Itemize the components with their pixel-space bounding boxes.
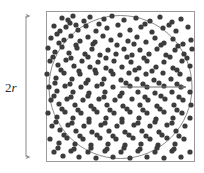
scatter-dot bbox=[52, 49, 57, 54]
scatter-dot bbox=[71, 146, 76, 151]
scatter-dot bbox=[134, 34, 139, 39]
scatter-dot bbox=[73, 128, 78, 133]
scatter-dot bbox=[149, 68, 154, 73]
scatter-dot bbox=[178, 154, 183, 159]
scatter-dot bbox=[152, 35, 157, 40]
scatter-dot bbox=[51, 23, 56, 28]
scatter-dot bbox=[169, 120, 174, 125]
scatter-dot bbox=[67, 20, 72, 25]
scatter-dot bbox=[173, 128, 178, 133]
scatter-dot bbox=[45, 110, 50, 115]
scatter-dot bbox=[112, 97, 117, 102]
scatter-dot bbox=[154, 145, 159, 150]
scatter-dot bbox=[51, 149, 56, 154]
scatter-dot bbox=[70, 89, 75, 94]
scatter-dot bbox=[60, 153, 65, 158]
scatter-dot bbox=[90, 41, 95, 46]
scatter-dot bbox=[173, 28, 178, 33]
scatter-dot bbox=[186, 76, 191, 81]
scatter-dot bbox=[75, 27, 80, 32]
scatter-dot bbox=[54, 114, 59, 119]
scatter-dot bbox=[71, 63, 76, 68]
scatter-dot bbox=[102, 120, 107, 125]
scatter-dot bbox=[104, 102, 109, 107]
scatter-dot bbox=[108, 37, 113, 42]
scatter-dot bbox=[135, 89, 140, 94]
scatter-dot bbox=[54, 31, 59, 36]
scatter-dot bbox=[134, 76, 139, 81]
scatter-dot bbox=[93, 28, 98, 33]
scatter-dot bbox=[46, 84, 51, 89]
scatter-dot bbox=[124, 106, 129, 111]
scatter-dot bbox=[68, 33, 73, 38]
scatter-dot bbox=[77, 38, 82, 43]
scatter-dot bbox=[121, 17, 126, 22]
scatter-dot bbox=[56, 140, 61, 145]
scatter-dot bbox=[119, 119, 124, 124]
scatter-dot bbox=[110, 133, 115, 138]
scatter-dot bbox=[174, 81, 179, 86]
scatter-dot bbox=[167, 54, 172, 59]
scatter-dot bbox=[117, 93, 122, 98]
scatter-dot bbox=[67, 81, 72, 86]
scatter-dot bbox=[88, 145, 93, 150]
scatter-dot bbox=[136, 115, 141, 120]
scatter-dot bbox=[140, 81, 145, 86]
scatter-dot bbox=[68, 94, 73, 99]
scatter-dot bbox=[152, 119, 157, 124]
scatter-dot bbox=[149, 29, 154, 34]
scatter-dot bbox=[147, 123, 152, 128]
scatter-dot bbox=[105, 47, 110, 52]
scatter-dot bbox=[123, 80, 128, 85]
scatter-dot bbox=[87, 14, 92, 19]
scatter-dot bbox=[164, 122, 169, 127]
scatter-dot bbox=[178, 16, 183, 21]
scatter-dot bbox=[101, 16, 106, 21]
scatter-dot bbox=[111, 58, 116, 63]
scatter-dot bbox=[176, 94, 181, 99]
scatter-dot bbox=[146, 51, 151, 56]
scatter-dot bbox=[175, 43, 180, 48]
scatter-dot bbox=[110, 154, 115, 159]
scatter-dot bbox=[169, 89, 174, 94]
scatter-dot bbox=[79, 58, 84, 63]
scatter-dot bbox=[184, 55, 189, 60]
scatter-dot bbox=[45, 45, 50, 50]
scatter-dot bbox=[85, 54, 90, 59]
scatter-dot bbox=[49, 123, 54, 128]
scatter-dot bbox=[118, 77, 123, 82]
scatter-dot bbox=[70, 13, 75, 18]
scatter-dot bbox=[81, 18, 86, 23]
scatter-dot bbox=[135, 120, 140, 125]
scatter-dot bbox=[138, 141, 143, 146]
scatter-dot bbox=[143, 71, 148, 76]
scatter-dot bbox=[94, 132, 99, 137]
scatter-dot bbox=[160, 70, 165, 75]
scatter-dot bbox=[95, 59, 100, 64]
scatter-dot bbox=[96, 96, 101, 101]
scatter-dot bbox=[85, 34, 90, 39]
scatter-dot bbox=[72, 102, 77, 107]
scatter-dot bbox=[168, 76, 173, 81]
scatter-dot bbox=[161, 83, 166, 88]
scatter-dot bbox=[103, 115, 108, 120]
scatter-dot bbox=[52, 80, 57, 85]
scatter-dot bbox=[151, 77, 156, 82]
scatter-dot bbox=[66, 50, 71, 55]
scatter-dot bbox=[89, 129, 94, 134]
scatter-dot bbox=[185, 24, 190, 29]
scatter-dot bbox=[50, 54, 55, 59]
scatter-dot bbox=[170, 115, 175, 120]
scatter-dot bbox=[56, 101, 61, 106]
scatter-dot bbox=[47, 136, 52, 141]
scatter-dot bbox=[83, 23, 88, 28]
scatter-dot bbox=[176, 133, 181, 138]
scatter-dot bbox=[139, 128, 144, 133]
scatter-dot bbox=[73, 22, 78, 27]
scatter-dot bbox=[147, 18, 152, 23]
scatter-dot bbox=[142, 21, 147, 26]
scatter-dot bbox=[121, 145, 126, 150]
scatter-dot bbox=[179, 110, 184, 115]
scatter-dot bbox=[44, 71, 49, 76]
scatter-dot bbox=[187, 89, 192, 94]
